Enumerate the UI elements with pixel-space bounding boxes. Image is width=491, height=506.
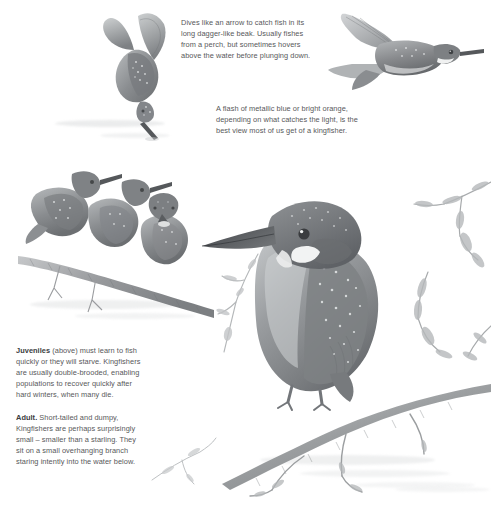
illustration-plate: Dives like an arrow to catch fish in its… bbox=[0, 0, 491, 506]
caption-adult: Adult. Short-tailed and dumpy, Kingfishe… bbox=[16, 401, 144, 468]
kingfisher-juveniles-icon bbox=[18, 160, 218, 320]
branch-icon bbox=[196, 390, 491, 500]
caption-juveniles-lead: Juveniles bbox=[16, 346, 50, 355]
leafy-twig-icon bbox=[388, 176, 491, 366]
leafy-twig-icon bbox=[214, 250, 270, 355]
kingfisher-diving-icon bbox=[78, 6, 184, 132]
caption-adult-lead: Adult. bbox=[16, 413, 37, 422]
kingfisher-flying-icon bbox=[318, 8, 484, 100]
caption-juveniles: Juveniles (above) must learn to fish qui… bbox=[16, 334, 146, 401]
leafy-twig-icon bbox=[148, 430, 218, 490]
caption-diving-behaviour: Dives like an arrow to catch fish in its… bbox=[181, 17, 317, 61]
caption-plumage-flash: A flash of metallic blue or bright orang… bbox=[216, 103, 374, 136]
